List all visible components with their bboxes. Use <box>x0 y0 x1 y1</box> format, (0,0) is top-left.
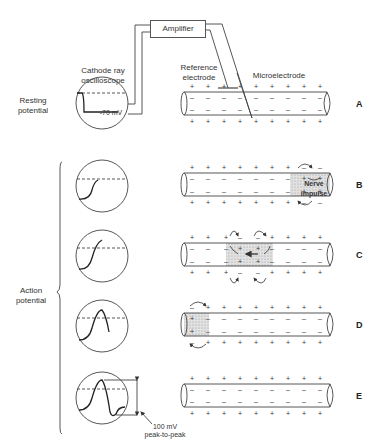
svg-text:–: – <box>238 386 242 393</box>
oscilloscope-b <box>76 160 128 212</box>
svg-text:+: + <box>270 118 274 125</box>
svg-text:–: – <box>206 175 210 182</box>
svg-text:+: + <box>270 339 274 346</box>
svg-text:+: + <box>286 199 290 206</box>
svg-text:–: – <box>286 315 290 322</box>
svg-text:–: – <box>318 315 322 322</box>
amplifier-box: Amplifier <box>150 20 206 38</box>
svg-text:+: + <box>238 83 242 90</box>
svg-text:–: – <box>318 164 322 171</box>
nerve-impulse-label: Nerve impulse <box>292 179 336 199</box>
svg-text:+: + <box>206 410 210 417</box>
svg-text:+: + <box>254 83 258 90</box>
svg-text:–: – <box>254 188 258 195</box>
svg-text:–: – <box>256 234 260 241</box>
resting-potential-label: Resting potential <box>10 96 56 116</box>
svg-text:+: + <box>270 304 274 311</box>
svg-text:+: + <box>238 164 242 171</box>
row-letter-e: E <box>356 391 362 401</box>
oscilloscope-d <box>76 300 128 352</box>
action-potential-label: Action potential <box>8 286 54 306</box>
svg-text:+: + <box>286 269 290 276</box>
svg-text:+: + <box>206 339 210 346</box>
svg-text:+: + <box>238 199 242 206</box>
svg-text:–: – <box>224 258 228 265</box>
svg-text:–: – <box>238 315 242 322</box>
svg-text:–: – <box>206 245 210 252</box>
svg-text:–: – <box>254 315 258 322</box>
row-letter-c: C <box>356 250 363 260</box>
svg-text:+: + <box>190 83 194 90</box>
svg-text:–: – <box>318 94 322 101</box>
svg-text:–: – <box>270 398 274 405</box>
svg-text:+: + <box>190 269 194 276</box>
svg-text:+: + <box>318 410 322 417</box>
reference-electrode-label: Reference electrode <box>176 63 222 83</box>
svg-text:+: + <box>286 83 290 90</box>
svg-text:+: + <box>270 234 274 241</box>
resting-value: -70 mV <box>97 108 125 118</box>
row-letter-d: D <box>356 320 363 330</box>
oscilloscope-e <box>76 372 152 424</box>
svg-text:–: – <box>270 188 274 195</box>
svg-text:–: – <box>270 175 274 182</box>
svg-text:–: – <box>190 175 194 182</box>
svg-text:+: + <box>302 269 306 276</box>
svg-text:–: – <box>286 386 290 393</box>
svg-text:–: – <box>222 175 226 182</box>
svg-text:–: – <box>238 269 242 276</box>
reference-electrode-line1: Reference <box>176 63 222 73</box>
svg-text:+: + <box>302 339 306 346</box>
microelectrode-label: Microelectrode <box>248 71 310 81</box>
svg-text:+: + <box>222 339 226 346</box>
svg-text:+: + <box>256 245 260 252</box>
svg-text:+: + <box>190 118 194 125</box>
svg-text:–: – <box>302 328 306 335</box>
svg-text:+: + <box>254 164 258 171</box>
svg-text:+: + <box>238 258 242 265</box>
svg-text:–: – <box>270 245 274 252</box>
svg-text:–: – <box>206 258 210 265</box>
svg-text:–: – <box>270 258 274 265</box>
svg-text:–: – <box>286 106 290 113</box>
svg-text:+: + <box>222 375 226 382</box>
svg-text:+: + <box>270 164 274 171</box>
svg-text:–: – <box>302 106 306 113</box>
oscilloscope-label: Cathode ray oscilloscope <box>78 66 128 86</box>
svg-text:+: + <box>254 410 258 417</box>
svg-text:+: + <box>318 269 322 276</box>
amplitude-label: 100 mV peak-to-peak <box>140 423 190 439</box>
svg-text:+: + <box>206 164 210 171</box>
svg-text:+: + <box>190 234 194 241</box>
svg-text:+: + <box>190 410 194 417</box>
svg-text:–: – <box>206 94 210 101</box>
svg-text:+: + <box>254 199 258 206</box>
svg-text:+: + <box>286 375 290 382</box>
amplitude-line1: 100 mV <box>140 423 190 431</box>
action-label-line1: Action <box>8 286 54 296</box>
svg-text:+: + <box>190 164 194 171</box>
svg-text:–: – <box>222 188 226 195</box>
svg-text:–: – <box>318 199 322 206</box>
svg-text:+: + <box>222 83 226 90</box>
svg-text:–: – <box>302 245 306 252</box>
svg-text:–: – <box>206 315 210 322</box>
oscilloscope-label-line1: Cathode ray <box>78 66 128 76</box>
row-letter-a: A <box>356 99 363 109</box>
svg-text:+: + <box>238 410 242 417</box>
svg-text:–: – <box>286 398 290 405</box>
svg-text:–: – <box>254 106 258 113</box>
svg-text:–: – <box>222 386 226 393</box>
svg-text:+: + <box>302 410 306 417</box>
svg-text:–: – <box>270 106 274 113</box>
svg-text:–: – <box>206 328 210 335</box>
row-letter-b: B <box>356 180 363 190</box>
svg-text:+: + <box>222 199 226 206</box>
svg-text:+: + <box>206 118 210 125</box>
svg-text:–: – <box>238 188 242 195</box>
svg-text:+: + <box>238 245 242 252</box>
svg-text:–: – <box>238 106 242 113</box>
svg-text:–: – <box>270 94 274 101</box>
svg-text:+: + <box>254 375 258 382</box>
svg-text:+: + <box>190 199 194 206</box>
